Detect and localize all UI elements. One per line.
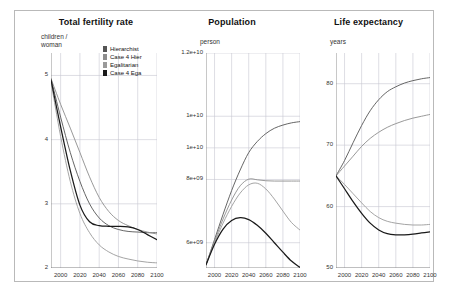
y-axis-unit-population: person [200, 38, 220, 46]
legend-item-label: Hierarchist [110, 45, 139, 53]
chart-title-population: Population [158, 17, 306, 27]
legend-item-label: Egalitarian [110, 61, 138, 69]
y-tick-label: 1.2e+10 [169, 49, 203, 55]
chart-panel-life-expectancy: Life expectancy years 506070802000202020… [302, 11, 435, 283]
chart-title-life-expectancy: Life expectancy [302, 17, 435, 27]
y-tick-label: 3 [14, 200, 48, 206]
y-tick-label: 8e+09 [169, 175, 203, 181]
chart-title-fertility: Total fertility rate [21, 17, 171, 27]
legend-item[interactable]: Egalitarian [103, 61, 142, 69]
legend-swatch-icon [103, 70, 107, 76]
y-tick-label: 50 [299, 264, 333, 270]
series-line [336, 78, 430, 176]
legend-item[interactable]: Case 4 Hier [103, 53, 142, 61]
series-line [336, 176, 430, 235]
figure-frame: Total fertility rate children / woman Hi… [14, 10, 434, 282]
series-line [336, 176, 430, 225]
y-tick-label: 5 [14, 71, 48, 77]
legend-item[interactable]: Case 4 Ega [103, 69, 142, 77]
plot-area-population [206, 53, 300, 268]
y-axis-unit-life-expectancy: years [330, 38, 346, 46]
series-line [51, 82, 157, 263]
legend-swatch-icon [103, 46, 107, 52]
chart-canvas [51, 53, 157, 268]
series-line [51, 80, 157, 240]
plot-area-life-expectancy [336, 53, 430, 268]
chart-panel-total-fertility-rate: Total fertility rate children / woman Hi… [15, 11, 165, 283]
y-tick-label: 60 [299, 203, 333, 209]
legend: HierarchistCase 4 HierEgalitarianCase 4 … [103, 45, 142, 77]
y-tick-label: 6e+09 [169, 239, 203, 245]
plot-area-fertility [51, 53, 157, 268]
y-tick-label: 1e+10 [169, 112, 203, 118]
y-axis-unit-fertility: children / woman [41, 33, 67, 48]
legend-swatch-icon [103, 62, 107, 68]
chart-panel-population: Population person 6e+098e+091e+101e+101.… [158, 11, 306, 283]
y-tick-label: 2 [14, 264, 48, 270]
series-line [206, 122, 300, 265]
legend-item[interactable]: Hierarchist [103, 45, 142, 53]
legend-item-label: Case 4 Ega [110, 69, 141, 77]
x-tick-label: 2100 [419, 272, 441, 278]
legend-swatch-icon [103, 54, 107, 60]
y-tick-label: 1e+10 [169, 144, 203, 150]
chart-canvas [206, 53, 300, 268]
y-tick-label: 70 [299, 141, 333, 147]
y-tick-label: 80 [299, 80, 333, 86]
chart-canvas [336, 53, 430, 268]
y-tick-label: 4 [14, 136, 48, 142]
legend-item-label: Case 4 Hier [110, 53, 142, 61]
